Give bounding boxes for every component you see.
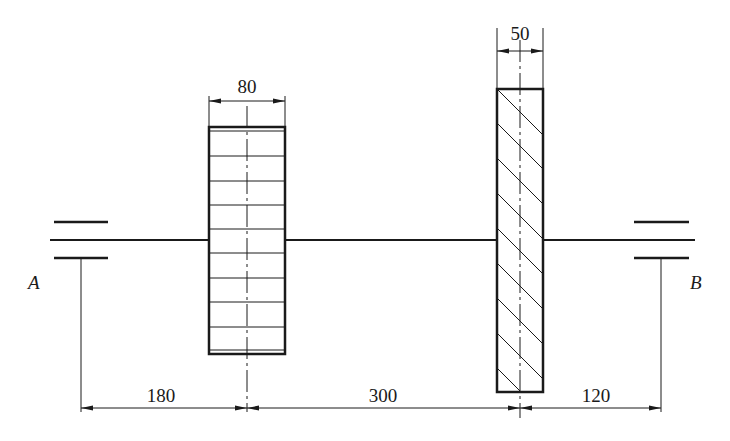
pulley [487, 40, 557, 428]
dimension-label-gear-to-pulley: 300 [369, 385, 398, 406]
dimension-label-a-to-gear: 180 [147, 385, 176, 406]
bearing-b [634, 222, 689, 412]
shaft-diagram: A B [0, 0, 730, 441]
dimension-label-gear-width: 80 [238, 76, 257, 97]
dimension-label-pulley-to-b: 120 [582, 385, 611, 406]
bearing-a [54, 222, 108, 412]
support-label-b: B [690, 272, 702, 293]
gear [209, 106, 285, 412]
support-label-a: A [26, 272, 40, 293]
dimension-label-pulley-width: 50 [511, 23, 530, 44]
